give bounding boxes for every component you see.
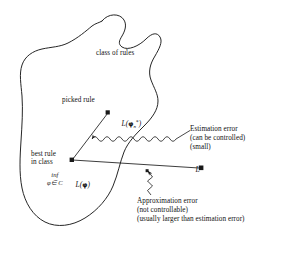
l-phi-n-star-label: L(φn*) xyxy=(114,109,141,139)
best-to-lstar-segment xyxy=(70,158,204,171)
figure-canvas: class of rules picked rule L(φn*) best r… xyxy=(0,0,285,260)
approximation-error-line3: (usually larger than estimation error) xyxy=(137,215,245,224)
class-of-rules-label: class of rules xyxy=(96,49,134,58)
infimum-inf: inf xyxy=(47,171,63,179)
picked-to-best-segment xyxy=(73,110,110,159)
l-star-label: L* xyxy=(188,155,202,183)
l-phi-close: ) xyxy=(87,180,90,189)
estimation-error-line3: (small) xyxy=(190,143,211,152)
approximation-error-connector xyxy=(146,169,153,195)
infimum-expression: inf φ∈ C xyxy=(47,171,63,187)
l-phi-n-star-close: ) xyxy=(139,119,142,128)
estimation-error-line2: (can be controlled) xyxy=(190,134,245,143)
l-star-sup: * xyxy=(200,165,203,171)
best-rule-label-line2: in class xyxy=(31,158,53,167)
picked-rule-label: picked rule xyxy=(62,96,95,105)
estimation-error-line1: Estimation error xyxy=(190,125,238,134)
approximation-error-line2: (not controllable) xyxy=(137,206,188,215)
approximation-error-line1: Approximation error xyxy=(137,197,198,206)
l-phi-label: L(φ) xyxy=(68,172,90,198)
infimum-domain: φ∈ C xyxy=(47,179,63,187)
